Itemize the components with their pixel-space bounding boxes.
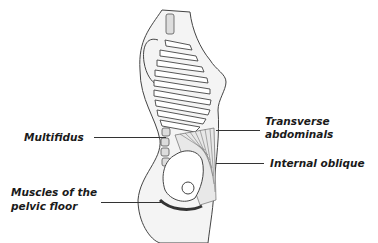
multifidus-label: Multifidus xyxy=(24,131,84,143)
transverse-abdominals-leader-line xyxy=(216,130,260,131)
transverse-abdominals-label-line2: abdominals xyxy=(265,128,333,140)
internal-oblique-leader-line xyxy=(216,163,264,164)
pelvic-floor-label-line1: Muscles of the xyxy=(11,186,97,198)
internal-oblique-label: Internal oblique xyxy=(270,157,365,169)
multifidus-leader-line xyxy=(94,137,166,138)
transverse-abdominals-label-line1: Transverse xyxy=(265,115,330,127)
pelvic-floor-label-line2: pelvic floor xyxy=(11,200,77,212)
pelvic-floor-leader-line xyxy=(101,202,163,203)
